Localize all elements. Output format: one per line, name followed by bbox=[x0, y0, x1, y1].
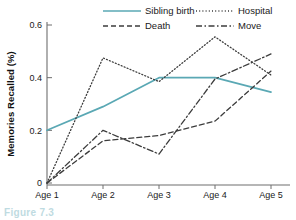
legend-label-hospital: Hospital bbox=[238, 5, 272, 16]
x-tick-label: Age 1 bbox=[35, 190, 59, 200]
x-tick-label: Age 4 bbox=[203, 190, 227, 200]
y-tick-label: 0.6 bbox=[29, 20, 42, 30]
series-line-move bbox=[47, 54, 271, 183]
y-tick-label: 0.2 bbox=[29, 126, 42, 136]
legend-label-sibling-birth: Sibling birth bbox=[145, 5, 195, 16]
legend-label-death: Death bbox=[145, 20, 170, 31]
y-tick-labels: 00.20.40.6 bbox=[29, 20, 52, 188]
y-tick-label: 0 bbox=[37, 178, 42, 188]
y-axis-title: Memories Recalled (%) bbox=[5, 51, 16, 157]
series-line-death bbox=[47, 71, 271, 183]
x-tick-label: Age 5 bbox=[259, 190, 283, 200]
x-tick-label: Age 2 bbox=[91, 190, 115, 200]
data-series bbox=[47, 37, 271, 183]
figure-caption: Figure 7.3 bbox=[4, 207, 54, 220]
x-tick-labels: Age 1Age 2Age 3Age 4Age 5 bbox=[35, 185, 283, 200]
memories-recalled-line-chart: Sibling birthHospitalDeathMove 00.20.40.… bbox=[0, 0, 296, 220]
x-tick-label: Age 3 bbox=[147, 190, 171, 200]
figure-container: Sibling birthHospitalDeathMove 00.20.40.… bbox=[0, 0, 296, 220]
legend-label-move: Move bbox=[238, 20, 261, 31]
chart-legend: Sibling birthHospitalDeathMove bbox=[103, 5, 272, 31]
series-line-sibling-birth bbox=[47, 78, 271, 131]
y-tick-label: 0.4 bbox=[29, 73, 42, 83]
series-line-hospital bbox=[47, 37, 271, 183]
